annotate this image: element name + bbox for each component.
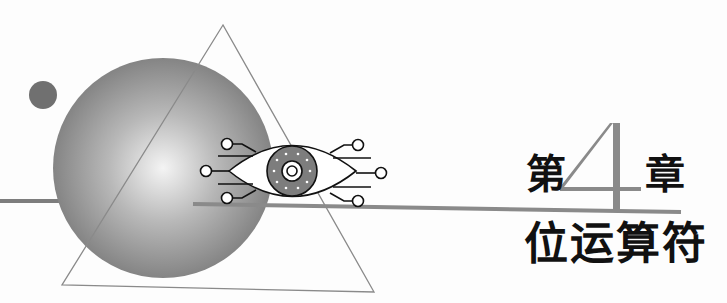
chapter-suffix: 章 [645,154,685,194]
chapter-heading: 第 章 位运算符 [0,0,727,303]
chapter-prefix: 第 [526,154,566,194]
chapter-title: 位运算符 [524,222,708,266]
